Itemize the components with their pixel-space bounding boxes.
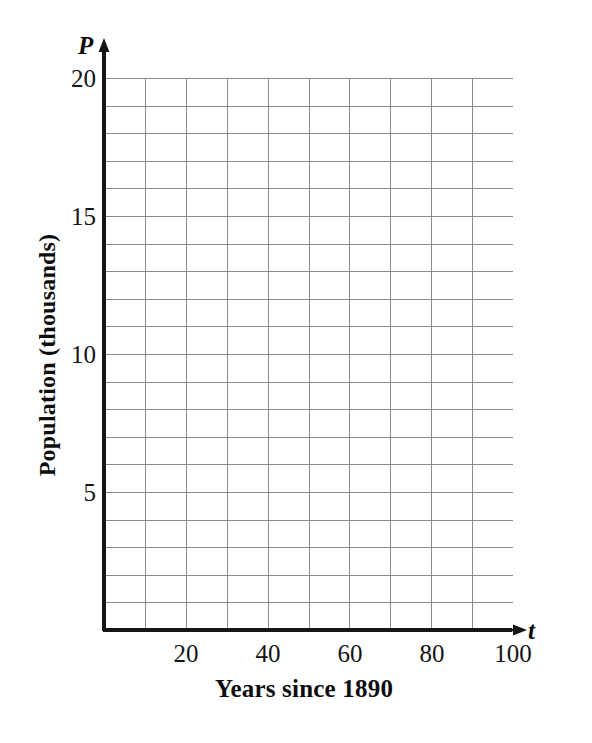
x-tick-label-100: 100 [494,641,532,666]
x-axis-tick-labels: 20 40 60 80 100 [0,0,592,743]
x-axis-title-text: Years since 1890 [215,676,393,701]
x-tick-label-20: 20 [174,641,199,666]
x-tick-label-60: 60 [338,641,363,666]
x-tick-label-40: 40 [256,641,281,666]
graph-figure: 20 15 10 5 20 40 60 80 100 P t Populatio… [0,0,592,743]
x-axis-variable-label: t [528,618,535,643]
y-axis-variable-label: P [78,33,93,58]
x-tick-label-80: 80 [420,641,445,666]
